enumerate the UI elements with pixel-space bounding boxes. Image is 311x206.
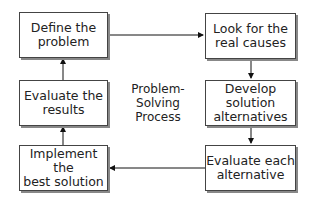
step-label: Develop solution alternatives bbox=[213, 82, 287, 124]
step-define-problem: Define the problem bbox=[19, 12, 108, 58]
step-label: Look for the real causes bbox=[213, 22, 288, 50]
diagram-title: Problem- Solving Process bbox=[118, 82, 198, 124]
step-label: Evaluate each alternative bbox=[206, 154, 295, 182]
step-evaluate-each-alternative: Evaluate each alternative bbox=[205, 145, 296, 191]
step-look-for-causes: Look for the real causes bbox=[205, 13, 296, 59]
step-label: Implement the best solution bbox=[20, 147, 107, 189]
step-develop-alternatives: Develop solution alternatives bbox=[205, 80, 296, 126]
step-label: Evaluate the results bbox=[24, 89, 103, 117]
step-label: Define the problem bbox=[31, 21, 96, 49]
step-implement-best-solution: Implement the best solution bbox=[19, 145, 108, 191]
step-evaluate-results: Evaluate the results bbox=[19, 80, 108, 126]
